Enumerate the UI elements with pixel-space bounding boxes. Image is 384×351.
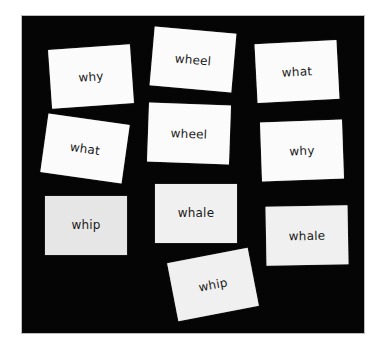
card-word: whale	[289, 228, 326, 243]
word-card: whale	[265, 205, 348, 265]
word-card: why	[48, 44, 134, 109]
card-word: whip	[197, 274, 228, 293]
word-card: wheel	[147, 102, 231, 164]
word-card: what	[40, 113, 129, 183]
card-word: what	[282, 63, 313, 79]
word-card: whip	[45, 196, 127, 255]
card-word: wheel	[171, 125, 208, 140]
card-word: wheel	[174, 50, 212, 67]
card-word: why	[289, 143, 315, 158]
card-word: why	[78, 68, 104, 84]
word-card: why	[260, 119, 344, 181]
card-word: whip	[71, 218, 100, 232]
word-card: wheel	[150, 26, 237, 92]
card-word: whale	[178, 206, 215, 220]
word-card: what	[255, 39, 340, 102]
word-card: whale	[155, 184, 237, 243]
card-word: what	[69, 139, 101, 157]
photo-canvas: why wheel what what wheel why whip whale…	[0, 0, 384, 351]
